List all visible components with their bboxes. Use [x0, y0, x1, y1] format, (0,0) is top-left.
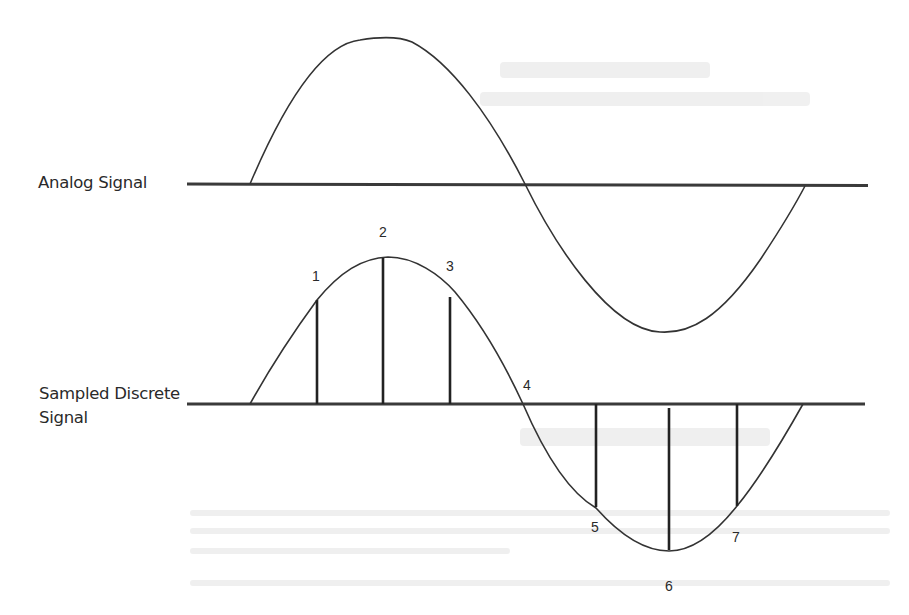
signal-diagram: 1 2 3 4 5 6 7 Analog Signal Sampled Disc…	[0, 0, 909, 615]
sample-label-4: 4	[523, 377, 531, 393]
sampled-signal-label-line1: Sampled Discrete	[39, 383, 180, 405]
diagram-canvas: 1 2 3 4 5 6 7	[0, 0, 909, 615]
sampled-signal-group: 1 2 3 4 5 6 7	[187, 224, 865, 594]
analog-axis	[187, 184, 868, 186]
sample-label-1: 1	[312, 268, 320, 284]
sample-label-7: 7	[732, 529, 740, 545]
analog-signal-group	[187, 38, 868, 333]
sample-label-6: 6	[665, 578, 673, 594]
sample-label-2: 2	[379, 224, 387, 240]
sample-label-5: 5	[591, 519, 599, 535]
sampled-signal-label-line2: Signal	[39, 407, 88, 429]
sample-label-3: 3	[446, 258, 454, 274]
analog-signal-label: Analog Signal	[38, 172, 147, 194]
bleed-through-shapes	[190, 62, 890, 586]
